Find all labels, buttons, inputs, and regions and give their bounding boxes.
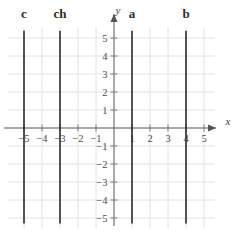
line-label-ch: ch [54,7,67,20]
y-tick-label: 3 [102,69,107,80]
coordinate-plane-figure: −5−4−3−2−112345 54321−1−2−3−4−5 x y ccha… [0,0,245,244]
y-tick-label: 1 [102,105,107,116]
y-tick-label: −4 [96,195,108,206]
x-tick-label: −2 [72,133,83,144]
x-tick-label: 2 [147,133,152,144]
y-tick-label: −3 [96,177,107,188]
y-tick-label: −1 [96,141,107,152]
y-tick-label: 2 [102,87,107,98]
line-label-c: c [21,7,27,20]
y-tick-label: −5 [96,213,107,224]
x-axis-arrowhead [208,124,216,131]
x-axis-tick-labels: −5−4−3−2−112345 [18,133,206,144]
x-axis-label: x [225,115,231,127]
x-tick-label: −4 [36,133,48,144]
y-axis-label: y [115,4,121,16]
x-tick-label: 5 [201,133,206,144]
x-tick-label: 3 [165,133,170,144]
graph-canvas: −5−4−3−2−112345 54321−1−2−3−4−5 x y [0,0,245,244]
y-tick-label: 5 [102,33,107,44]
line-label-a: a [129,7,136,20]
axis-lines [4,14,216,226]
line-label-b: b [182,7,189,20]
y-tick-label: 4 [102,51,108,62]
y-tick-label: −2 [96,159,107,170]
